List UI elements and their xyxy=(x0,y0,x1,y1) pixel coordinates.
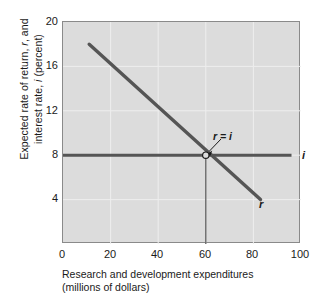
y-tick-20: 20 xyxy=(36,16,58,27)
y-tick-8: 8 xyxy=(36,149,58,160)
equilibrium-label: r = i xyxy=(213,131,232,142)
x-tick-20: 20 xyxy=(90,248,130,260)
y-axis-title-line1-b: , and xyxy=(18,18,30,42)
y-tick-12: 12 xyxy=(36,105,58,116)
x-tick-100: 100 xyxy=(280,248,320,260)
x-axis-title-line1: Research and development expenditures xyxy=(62,268,322,281)
y-axis-title-line1: Expected rate of return, r, and xyxy=(17,18,31,159)
y-axis-title-symbol-r: r xyxy=(18,42,30,46)
x-axis-title-line2: (millions of dollars) xyxy=(62,281,322,294)
gridlines xyxy=(63,22,301,244)
y-tick-4: 4 xyxy=(36,193,58,204)
x-tick-60: 60 xyxy=(185,248,225,260)
series-line-r xyxy=(89,44,260,199)
x-tick-80: 80 xyxy=(232,248,272,260)
x-tick-40: 40 xyxy=(137,248,177,260)
y-tick-16: 16 xyxy=(36,60,58,71)
y-axis-title-line1-a: Expected rate of return, xyxy=(18,46,30,160)
plot-canvas xyxy=(63,22,301,244)
x-tick-0: 0 xyxy=(42,248,82,260)
x-axis-tick-labels: 0 20 40 60 80 100 xyxy=(0,248,325,264)
series-label-i: i xyxy=(302,150,305,161)
x-axis-title: Research and development expenditures (m… xyxy=(62,268,322,293)
plot-area xyxy=(62,21,300,243)
series-label-r: r xyxy=(259,199,263,210)
chart-figure: Expected rate of return, r, and interest… xyxy=(0,0,325,307)
equilibrium-marker xyxy=(203,152,209,158)
